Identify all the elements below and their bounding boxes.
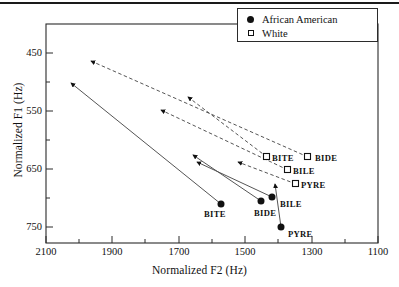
traj-white-bite <box>188 97 267 157</box>
aa-trajectories <box>71 83 281 227</box>
label-white-bite: BITE <box>272 153 294 163</box>
xtick-1900: 1900 <box>92 246 132 257</box>
x-axis-ticks <box>46 236 378 243</box>
ytick-450: 450 <box>16 47 42 58</box>
label-aa-pyre: PYRE <box>288 229 313 239</box>
x-axis-title: Normalized F2 (Hz) <box>0 264 399 276</box>
marker-white-bite <box>264 154 270 160</box>
xtick-1700: 1700 <box>159 246 199 257</box>
label-white-bile: BILE <box>293 166 315 176</box>
marker-white-bile <box>285 167 291 173</box>
xtick-2100: 2100 <box>26 246 66 257</box>
marker-aa-bite <box>218 201 225 208</box>
traj-aa-bile <box>197 162 272 197</box>
legend-label-white: White <box>262 28 288 39</box>
label-white-pyre: PYRE <box>301 180 326 190</box>
marker-aa-pyre <box>278 224 285 231</box>
xtick-1100: 1100 <box>358 246 398 257</box>
traj-aa-bite <box>71 83 221 204</box>
traj-aa-bide <box>193 155 261 201</box>
figure-canvas: 450 550 650 750 2100 1900 1700 1500 1300… <box>0 0 399 287</box>
marker-aa-bide <box>258 198 265 205</box>
traj-white-bide <box>91 61 308 157</box>
legend: African American White <box>237 8 378 42</box>
plot-svg <box>0 0 399 287</box>
filled-circle-icon <box>246 16 255 23</box>
marker-aa-bile <box>269 194 276 201</box>
y-axis-title: Normalized F1 (Hz) <box>12 65 24 195</box>
white-trajectories <box>91 61 308 184</box>
y-axis-ticks <box>46 53 53 227</box>
label-aa-bite: BITE <box>204 209 226 219</box>
legend-label-african-american: African American <box>262 14 338 25</box>
marker-white-pyre <box>293 181 299 187</box>
label-aa-bile: BILE <box>280 199 302 209</box>
xtick-1500: 1500 <box>225 246 265 257</box>
legend-entry-white: White <box>246 26 377 40</box>
label-white-bide: BIDE <box>315 153 337 163</box>
xtick-1300: 1300 <box>292 246 332 257</box>
legend-entry-african-american: African American <box>246 12 377 26</box>
ytick-750: 750 <box>16 221 42 232</box>
label-aa-bide: BIDE <box>254 208 276 218</box>
open-square-icon <box>246 30 255 36</box>
marker-white-bide <box>305 154 311 160</box>
